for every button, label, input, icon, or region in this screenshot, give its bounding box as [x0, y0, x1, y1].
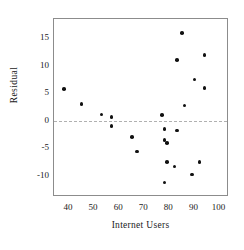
x-tick-label: 40	[64, 202, 73, 212]
data-point	[110, 124, 114, 128]
data-point	[190, 173, 194, 177]
y-tick-label: -10	[37, 170, 49, 180]
residual-scatter-chart: Residual 151050-5-10 405060708090100 Int…	[0, 0, 244, 250]
x-axis-title: Internet Users	[53, 220, 228, 230]
y-axis-tick-labels: 151050-5-10	[26, 18, 49, 196]
data-point	[163, 181, 167, 185]
x-tick-label: 70	[139, 202, 148, 212]
data-point	[100, 113, 104, 117]
data-point	[80, 102, 84, 106]
y-tick-label: -5	[42, 142, 50, 152]
data-point	[173, 165, 177, 169]
data-point	[165, 141, 169, 145]
y-tick-label: 15	[40, 32, 49, 42]
data-point	[193, 78, 197, 82]
data-point	[175, 129, 179, 133]
data-point	[110, 115, 114, 119]
data-point	[135, 150, 139, 154]
data-point	[203, 86, 207, 90]
plot-area	[54, 19, 227, 195]
y-tick-label: 0	[45, 115, 50, 125]
x-tick-label: 90	[189, 202, 198, 212]
y-axis-title: Residual	[9, 45, 19, 125]
data-point	[183, 104, 187, 108]
x-tick-label: 50	[89, 202, 98, 212]
x-tick-label: 80	[164, 202, 173, 212]
y-tick-label: 10	[40, 60, 49, 70]
x-tick-label: 60	[114, 202, 123, 212]
data-point	[198, 160, 202, 164]
data-point	[203, 53, 207, 57]
data-point	[160, 113, 164, 117]
data-point	[62, 87, 66, 91]
plot-frame	[53, 18, 228, 196]
x-tick-label: 100	[212, 202, 226, 212]
data-point	[163, 127, 167, 131]
data-point	[175, 58, 179, 62]
data-point	[180, 31, 184, 35]
zero-reference-line	[54, 121, 227, 122]
y-tick-label: 5	[45, 87, 50, 97]
x-axis-tick-labels: 405060708090100	[53, 202, 228, 214]
data-point	[130, 135, 134, 139]
data-point	[165, 160, 169, 164]
